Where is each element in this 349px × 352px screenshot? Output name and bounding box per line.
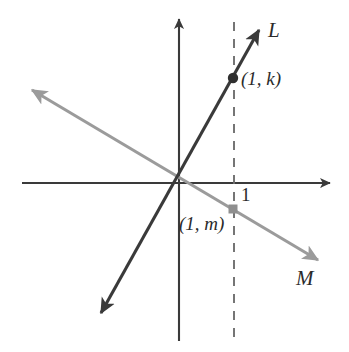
line-m	[32, 90, 318, 260]
point-label-1-m: (1, m)	[179, 214, 224, 233]
point-marker-1-k	[228, 73, 238, 83]
line-label-m: M	[296, 268, 314, 289]
x-axis-tick-label-1: 1	[241, 185, 251, 204]
point-marker-1-m	[229, 205, 238, 214]
line-label-l: L	[268, 20, 280, 41]
point-label-1-k: (1, k)	[241, 69, 281, 88]
coordinate-plane-svg	[0, 0, 349, 352]
graph-figure: L M (1, k) (1, m) 1	[0, 0, 349, 352]
